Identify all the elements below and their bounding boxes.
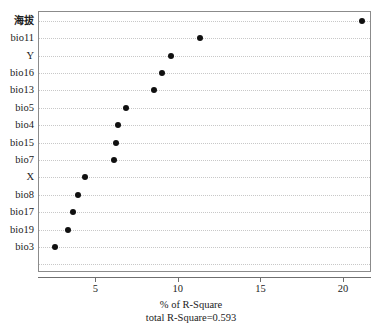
axis-title-block: % of R-Square total R-Square=0.593	[0, 298, 382, 324]
y-axis-label-11: bio8	[15, 188, 34, 199]
dot-plot-chart: 海拔bio11Ybio16bio13bio5bio4bio15bio7Xbio8…	[0, 0, 382, 332]
data-point	[70, 209, 76, 215]
x-axis-tick	[95, 277, 96, 282]
data-point	[123, 105, 129, 111]
x-axis-tick-label: 15	[255, 283, 266, 295]
y-axis-label-4: bio16	[10, 66, 34, 77]
y-axis-label-9: bio7	[15, 153, 34, 164]
y-axis-label-8: bio15	[10, 136, 34, 147]
x-axis-tick	[178, 277, 179, 282]
plot-area	[38, 11, 371, 272]
y-axis-label-12: bio17	[10, 206, 34, 217]
x-axis-subtitle: total R-Square=0.593	[0, 311, 382, 324]
y-axis-label-2: bio11	[10, 32, 34, 43]
data-point	[52, 244, 58, 250]
x-axis-tick	[343, 277, 344, 282]
y-axis-label-5: bio13	[10, 84, 34, 95]
x-axis-tick-label: 5	[93, 283, 98, 295]
data-point	[151, 87, 157, 93]
y-axis-label-1: 海拔	[14, 14, 34, 25]
data-point	[197, 35, 203, 41]
y-axis-label-14: bio3	[15, 240, 34, 251]
data-point	[113, 140, 119, 146]
data-point	[168, 53, 174, 59]
y-axis-label-10: X	[26, 171, 34, 182]
data-point	[159, 70, 165, 76]
x-axis-tick-label: 10	[173, 283, 184, 295]
y-axis-label-3: Y	[26, 49, 34, 60]
data-point	[111, 157, 117, 163]
x-axis-tick-label: 20	[338, 283, 349, 295]
data-point	[359, 18, 365, 24]
y-axis-label-7: bio4	[15, 119, 34, 130]
data-point	[65, 227, 71, 233]
data-point	[75, 192, 81, 198]
y-axis-label-6: bio5	[15, 101, 34, 112]
data-point	[82, 174, 88, 180]
x-axis-title: % of R-Square	[0, 298, 382, 311]
y-axis-label-13: bio19	[10, 223, 34, 234]
data-point	[115, 122, 121, 128]
data-points-layer	[39, 12, 370, 271]
y-axis-category-labels: 海拔bio11Ybio16bio13bio5bio4bio15bio7Xbio8…	[0, 11, 34, 272]
x-axis-line	[38, 277, 371, 278]
x-axis-tick	[260, 277, 261, 282]
